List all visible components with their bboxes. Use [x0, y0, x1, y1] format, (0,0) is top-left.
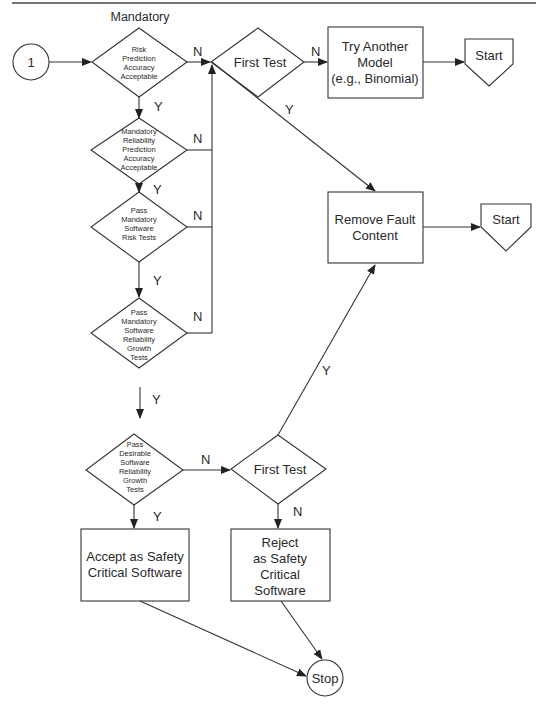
label-first-test-bottom-no: N: [293, 504, 302, 519]
risk-line-2: Accuracy: [124, 63, 155, 72]
decision-pass-desirable-growth: Pass Desirable Software Reliability Grow…: [86, 434, 183, 505]
rt-line-0: Pass: [131, 206, 148, 215]
try-line-0: Try Another: [342, 39, 409, 54]
edge-first-test-bottom-yes: [278, 265, 375, 435]
mg-line-5: Tests: [130, 353, 148, 362]
start-top-label: Start: [475, 48, 503, 63]
accept-line-1: Critical Software: [88, 565, 183, 580]
terminator-start-top: Start: [465, 39, 513, 86]
rfc-line-1: Content: [352, 228, 398, 243]
rfc-line-0: Remove Fault: [335, 212, 416, 227]
process-accept: Accept as Safety Critical Software: [81, 529, 189, 601]
decision-pass-mandatory-growth: Pass Mandatory Software Reliability Grow…: [91, 298, 187, 368]
rt-line-3: Risk Tests: [122, 233, 156, 242]
label-reliability-yes: Y: [153, 182, 162, 197]
reject-line-1: as Safety: [253, 551, 308, 566]
decision-first-test-top: First Test: [211, 28, 304, 97]
terminator-stop: Stop: [307, 660, 343, 696]
connector-1: 1: [13, 44, 49, 80]
risk-line-0: Risk: [132, 45, 147, 54]
label-risk-tests-yes: Y: [153, 273, 162, 288]
label-mandatory-growth-yes: Y: [152, 392, 161, 407]
connector-1-label: 1: [27, 55, 34, 70]
label-risk-no: N: [193, 44, 202, 59]
label-risk-tests-no: N: [193, 208, 202, 223]
rel-line-1: Reliability: [123, 136, 155, 145]
section-label-mandatory: Mandatory: [110, 10, 170, 24]
label-first-test-bottom-yes: Y: [322, 363, 331, 378]
first-test-top-label: First Test: [234, 55, 287, 70]
dg-line-1: Desirable: [119, 449, 151, 458]
edge-reject-to-stop: [281, 601, 322, 659]
dg-line-4: Growth: [123, 476, 147, 485]
decision-first-test-bottom: First Test: [231, 435, 326, 504]
accept-line-0: Accept as Safety: [86, 549, 184, 564]
stop-label: Stop: [312, 671, 339, 686]
edge-accept-to-stop: [140, 601, 306, 676]
mg-line-2: Software: [124, 326, 154, 335]
label-desirable-yes: Y: [153, 509, 162, 524]
flowchart: Mandatory 1 Risk Prediction Accuracy Acc…: [0, 0, 546, 707]
mg-line-1: Mandatory: [121, 317, 157, 326]
rt-line-1: Mandatory: [121, 215, 157, 224]
risk-line-1: Prediction: [122, 54, 155, 63]
process-remove-fault-content: Remove Fault Content: [328, 192, 423, 263]
dg-line-2: Software: [120, 458, 150, 467]
rel-line-0: Mandatory: [121, 127, 157, 136]
label-mandatory-growth-no: N: [193, 309, 202, 324]
mg-line-3: Reliability: [123, 335, 155, 344]
mg-line-4: Growth: [127, 344, 151, 353]
label-first-test-top-no: N: [311, 44, 320, 59]
risk-line-3: Acceptable: [120, 72, 157, 81]
label-first-test-top-yes: Y: [285, 102, 294, 117]
label-reliability-no: N: [193, 131, 202, 146]
reject-line-3: Software: [254, 583, 305, 598]
try-line-1: Model: [357, 55, 393, 70]
label-desirable-no: N: [201, 452, 210, 467]
dg-line-0: Pass: [127, 440, 144, 449]
reject-line-2: Critical: [260, 567, 300, 582]
rt-line-2: Software: [124, 224, 154, 233]
label-risk-yes: Y: [154, 99, 163, 114]
process-try-another-model: Try Another Model (e.g., Binomial): [328, 27, 423, 98]
dg-line-5: Tests: [126, 485, 144, 494]
decision-pass-mandatory-risk: Pass Mandatory Software Risk Tests: [91, 192, 187, 262]
start-mid-label: Start: [492, 212, 520, 227]
rel-line-3: Accuracy: [124, 154, 155, 163]
decision-mandatory-reliability: Mandatory Reliability Prediction Accurac…: [91, 118, 187, 184]
mg-line-0: Pass: [131, 308, 148, 317]
rel-line-2: Prediction: [122, 145, 155, 154]
first-test-bottom-label: First Test: [254, 462, 307, 477]
reject-line-0: Reject: [262, 535, 299, 550]
dg-line-3: Reliability: [119, 467, 151, 476]
rel-line-4: Acceptable: [120, 163, 157, 172]
try-line-2: (e.g., Binomial): [331, 71, 418, 86]
terminator-start-mid: Start: [481, 204, 531, 251]
decision-risk-prediction: Risk Prediction Accuracy Acceptable: [92, 28, 187, 97]
process-reject: Reject as Safety Critical Software: [231, 529, 330, 601]
